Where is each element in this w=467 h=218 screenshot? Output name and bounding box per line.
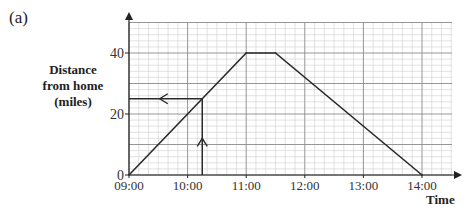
y-tick-label: 20 [110, 107, 124, 122]
x-tick-label: 12:00 [290, 178, 320, 193]
x-tick-label: 10:00 [173, 178, 203, 193]
x-tick-label: 14:00 [407, 178, 437, 193]
x-axis-arrowhead [454, 171, 462, 179]
journey-vertex [128, 174, 130, 176]
tick-labels: 09:0010:0011:0012:0013:0014:0002040 [110, 46, 437, 193]
journey-vertex [275, 52, 277, 54]
x-tick-label: 13:00 [349, 178, 379, 193]
journey-vertex [421, 174, 423, 176]
y-tick-label: 0 [117, 168, 124, 183]
distance-time-chart: 09:0010:0011:0012:0013:0014:0002040 [0, 0, 467, 218]
y-tick-label: 40 [110, 46, 124, 61]
journey-vertex [245, 52, 247, 54]
y-axis-arrowhead [125, 12, 133, 20]
x-tick-label: 11:00 [232, 178, 261, 193]
